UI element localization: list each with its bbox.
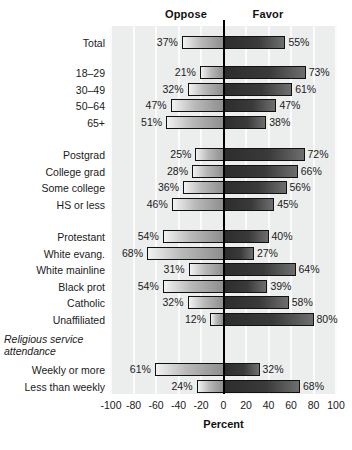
favor-value-label: 73% [309, 66, 339, 79]
favor-column-header: Favor [238, 8, 298, 20]
favor-value-label: 55% [288, 36, 318, 49]
oppose-bar [195, 148, 223, 161]
favor-value-label: 72% [308, 148, 338, 161]
favor-bar [224, 36, 286, 49]
favor-value-label: 61% [295, 83, 325, 96]
chart-row: Less than weekly24%68% [0, 380, 352, 394]
oppose-bar [183, 181, 224, 194]
favor-value-label: 32% [263, 363, 293, 376]
favor-bar [224, 165, 298, 178]
chart-row: Total37%55% [0, 36, 352, 50]
favor-bar [224, 247, 254, 260]
oppose-bar [155, 363, 224, 376]
favor-value-label: 80% [317, 313, 347, 326]
oppose-value-label: 21% [166, 66, 196, 79]
favor-bar [224, 116, 267, 129]
chart-row: 50–6447%47% [0, 99, 352, 113]
oppose-value-label: 28% [158, 165, 188, 178]
oppose-bar [200, 66, 224, 79]
row-category-label: White mainline [0, 263, 105, 277]
oppose-value-label: 47% [137, 99, 167, 112]
chart-row: HS or less46%45% [0, 198, 352, 212]
oppose-column-header: Oppose [156, 8, 216, 20]
favor-bar [224, 181, 287, 194]
chart-row: 30–4932%61% [0, 83, 352, 97]
oppose-value-label: 68% [113, 247, 143, 260]
oppose-bar [189, 263, 224, 276]
oppose-bar [192, 165, 224, 178]
zero-axis-line [223, 20, 225, 394]
favor-value-label: 47% [279, 99, 309, 112]
favor-bar [224, 230, 269, 243]
oppose-value-label: 36% [149, 181, 179, 194]
oppose-value-label: 24% [163, 380, 193, 393]
row-category-label: Some college [0, 181, 105, 195]
oppose-value-label: 32% [154, 83, 184, 96]
oppose-value-label: 37% [148, 36, 178, 49]
oppose-bar [188, 83, 224, 96]
row-category-label: White evang. [0, 247, 105, 261]
chart-row: College grad28%66% [0, 165, 352, 179]
oppose-value-label: 46% [138, 198, 168, 211]
chart-row: Some college36%56% [0, 181, 352, 195]
oppose-bar [163, 230, 224, 243]
row-category-label: Black prot [0, 280, 105, 294]
oppose-bar [163, 280, 224, 293]
favor-value-label: 68% [303, 380, 333, 393]
favor-value-label: 58% [292, 296, 322, 309]
favor-bar [224, 280, 268, 293]
favor-value-label: 56% [290, 181, 320, 194]
oppose-bar [197, 380, 224, 393]
chart-row: Black prot54%39% [0, 280, 352, 294]
favor-bar [224, 99, 277, 112]
oppose-value-label: 12% [176, 313, 206, 326]
row-category-label: Postgrad [0, 148, 105, 162]
oppose-bar [166, 116, 223, 129]
group-heading-religious-service-attendance: Religious service attendance [0, 333, 100, 357]
oppose-bar [210, 313, 224, 326]
oppose-bar [182, 36, 224, 49]
row-category-label: Less than weekly [0, 380, 105, 394]
chart-row: White mainline31%64% [0, 263, 352, 277]
row-category-label: 18–29 [0, 66, 105, 80]
row-category-label: 30–49 [0, 83, 105, 97]
oppose-value-label: 51% [132, 116, 162, 129]
row-category-label: 50–64 [0, 99, 105, 113]
oppose-bar [147, 247, 224, 260]
chart-row: 18–2921%73% [0, 66, 352, 80]
oppose-value-label: 25% [161, 148, 191, 161]
favor-value-label: 38% [269, 116, 299, 129]
x-axis-title: Percent [111, 418, 336, 430]
favor-bar [224, 66, 306, 79]
oppose-value-label: 32% [154, 296, 184, 309]
row-category-label: 65+ [0, 116, 105, 130]
favor-bar [224, 198, 275, 211]
favor-bar [224, 263, 296, 276]
row-category-label: Catholic [0, 296, 105, 310]
oppose-bar [188, 296, 224, 309]
oppose-bar [172, 198, 224, 211]
x-axis-tick: 100 [321, 398, 351, 412]
chart-row: Weekly or more61%32% [0, 363, 352, 377]
chart-row: Catholic32%58% [0, 296, 352, 310]
x-axis-tick-labels: -100-80-60-40-20020406080100 [111, 398, 336, 412]
chart-row: Postgrad25%72% [0, 148, 352, 162]
chart-row: 65+51%38% [0, 116, 352, 130]
favor-value-label: 45% [277, 198, 307, 211]
chart-row: White evang.68%27% [0, 247, 352, 261]
oppose-value-label: 31% [155, 263, 185, 276]
row-category-label: Weekly or more [0, 363, 105, 377]
oppose-value-label: 54% [129, 230, 159, 243]
oppose-bar [171, 99, 224, 112]
favor-value-label: 27% [257, 247, 287, 260]
chart-row: Protestant54%40% [0, 230, 352, 244]
row-category-label: Unaffiliated [0, 313, 105, 327]
row-category-label: Protestant [0, 230, 105, 244]
favor-bar [224, 363, 260, 376]
row-category-label: College grad [0, 165, 105, 179]
favor-bar [224, 83, 293, 96]
favor-bar [224, 148, 305, 161]
favor-value-label: 40% [272, 230, 302, 243]
favor-bar [224, 380, 301, 393]
row-category-label: Total [0, 36, 105, 50]
